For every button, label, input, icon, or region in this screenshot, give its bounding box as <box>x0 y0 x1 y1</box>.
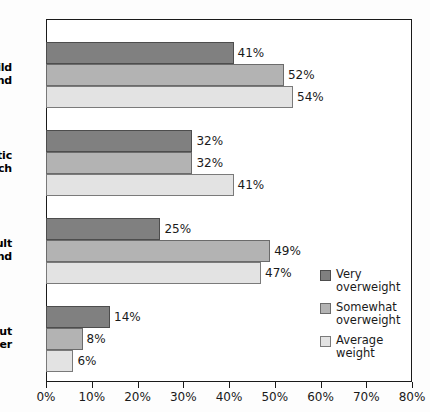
x-axis-tick-label: 0% <box>21 390 71 404</box>
bar-value-label: 6% <box>73 350 96 372</box>
x-axis-tick <box>138 382 139 388</box>
bar-value-label: 52% <box>284 64 315 86</box>
category-label-line: Scout <box>0 326 12 339</box>
legend-item[interactable]: Average weight <box>320 334 420 360</box>
x-axis-tick-label: 10% <box>67 390 117 404</box>
x-axis-tick-label: 40% <box>204 390 254 404</box>
category-label: Scoutleader <box>0 326 12 351</box>
legend-swatch-icon <box>320 303 331 314</box>
legend-label: Somewhat overweight <box>336 301 400 327</box>
bar-value-label: 41% <box>234 42 265 64</box>
category-label-line: coach <box>0 163 12 176</box>
bar-value-label: 32% <box>192 152 223 174</box>
bar-value-label: 49% <box>270 240 301 262</box>
legend-label: Very overweight <box>336 268 400 294</box>
x-axis-tick <box>412 382 413 388</box>
legend-item[interactable]: Very overweight <box>320 268 420 294</box>
bar <box>46 64 284 86</box>
x-axis-tick <box>366 382 367 388</box>
category-label-line: friend <box>0 75 12 88</box>
x-axis-tick-label: 30% <box>158 390 208 404</box>
bar-value-label: 32% <box>192 130 223 152</box>
x-axis-tick <box>229 382 230 388</box>
legend-label: Average weight <box>336 334 383 360</box>
bar <box>46 262 261 284</box>
chart-legend: Very overweightSomewhat overweightAverag… <box>320 268 420 367</box>
bar-value-label: 14% <box>110 306 141 328</box>
bar-value-label: 54% <box>293 86 324 108</box>
category-label: Athleticcoach <box>0 150 12 175</box>
bar <box>46 42 234 64</box>
x-axis-tick-label: 60% <box>296 390 346 404</box>
x-axis-tick-label: 70% <box>341 390 391 404</box>
x-axis-tick <box>92 382 93 388</box>
category-label: Childfriend <box>0 62 12 87</box>
bar <box>46 328 83 350</box>
bar-value-label: 8% <box>83 328 106 350</box>
x-axis-tick <box>275 382 276 388</box>
legend-item[interactable]: Somewhat overweight <box>320 301 420 327</box>
bar-chart: 41%52%54%32%32%41%25%49%47%14%8%6% Child… <box>0 0 430 412</box>
legend-swatch-icon <box>320 270 331 281</box>
category-label-line: Athletic <box>0 150 12 163</box>
legend-swatch-icon <box>320 336 331 347</box>
category-label-line: friend <box>0 251 12 264</box>
bar <box>46 174 234 196</box>
bar <box>46 86 293 108</box>
x-axis-tick-label: 50% <box>250 390 300 404</box>
bar <box>46 152 192 174</box>
bar <box>46 350 73 372</box>
bar <box>46 306 110 328</box>
category-label: Adultfriend <box>0 238 12 263</box>
bar-value-label: 47% <box>261 262 292 284</box>
category-label-line: Adult <box>0 238 12 251</box>
x-axis-tick-label: 80% <box>387 390 430 404</box>
bar <box>46 218 160 240</box>
bar-value-label: 41% <box>234 174 265 196</box>
x-axis-tick <box>321 382 322 388</box>
x-axis-tick <box>183 382 184 388</box>
category-label-line: leader <box>0 339 12 352</box>
bar <box>46 240 270 262</box>
bar-value-label: 25% <box>160 218 191 240</box>
category-label-line: Child <box>0 62 12 75</box>
x-axis-tick <box>46 382 47 388</box>
bar <box>46 130 192 152</box>
x-axis-tick-label: 20% <box>113 390 163 404</box>
